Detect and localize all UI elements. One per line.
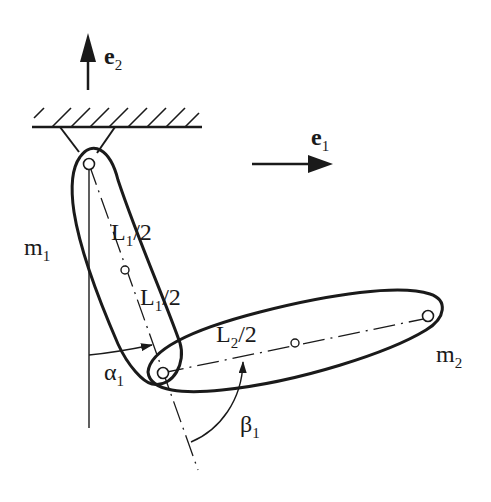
length-l2-label: L2/2 <box>216 321 257 351</box>
e1-label: e1 <box>311 124 329 154</box>
fixed-ground <box>32 108 202 153</box>
beta-angle-arc <box>191 362 243 442</box>
double-pendulum-diagram: e2 e1 <box>0 0 491 502</box>
arrow-right-icon <box>308 155 333 173</box>
e2-label: e2 <box>104 43 122 73</box>
link1-center-of-mass <box>121 266 129 274</box>
pivot-joint-2 <box>158 368 169 379</box>
pivot-joint-1 <box>84 159 95 170</box>
link2-center-of-mass <box>291 339 299 347</box>
length-l1-upper-label: L1/2 <box>111 219 152 249</box>
link2-end-point <box>423 311 434 322</box>
mass2-label: m2 <box>436 341 462 371</box>
mass1-label: m1 <box>24 234 50 264</box>
e1-vector <box>252 155 333 173</box>
alpha-label: α1 <box>104 359 124 389</box>
e2-vector <box>80 33 96 90</box>
beta-label: β1 <box>240 411 260 441</box>
arrow-up-icon <box>80 33 96 62</box>
